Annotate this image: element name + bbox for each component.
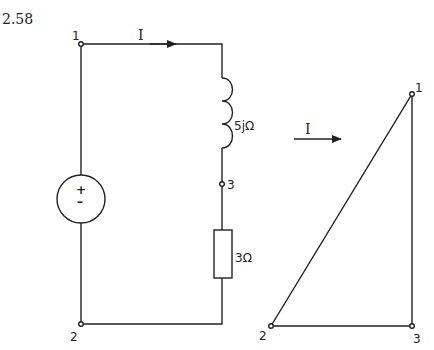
top-wire <box>81 44 222 78</box>
node-3-terminal <box>220 182 225 187</box>
current-label: I <box>138 27 144 43</box>
phasor-node-2 <box>269 324 274 329</box>
phasor-node-3-label: 3 <box>413 332 421 346</box>
phasor-node-1 <box>410 92 415 97</box>
node-2-label: 2 <box>70 330 78 344</box>
phasor-diagram <box>269 92 415 329</box>
resistor-label: 3Ω <box>235 251 252 265</box>
node-3-label: 3 <box>227 178 235 192</box>
phasor-node-2-label: 2 <box>259 329 267 343</box>
inductor-label: 5jΩ <box>234 119 254 133</box>
problem-number: 2.58 <box>2 11 33 27</box>
voltage-triangle <box>271 94 412 326</box>
inductor <box>222 78 233 148</box>
bottom-wire <box>81 278 222 324</box>
node-1-label: 1 <box>72 29 80 43</box>
phasor-node-3 <box>410 324 415 329</box>
resistor <box>214 230 232 278</box>
node-2-terminal <box>79 322 84 327</box>
source-minus: – <box>77 195 83 209</box>
phasor-node-1-label: 1 <box>415 81 423 95</box>
phasor-current-label: I <box>305 121 311 137</box>
figure: 2.58 I 5jΩ 3Ω + – 1 2 3 I 1 2 3 <box>0 0 434 350</box>
